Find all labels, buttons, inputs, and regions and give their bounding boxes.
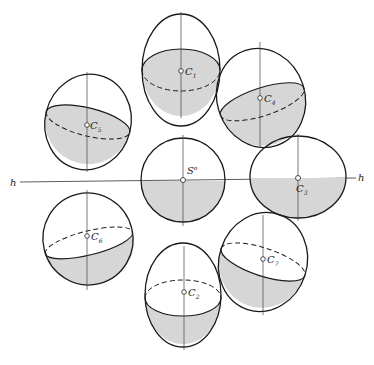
sphere-c6 — [33, 183, 143, 294]
label-c7: C7 — [267, 254, 279, 267]
sphere-c1: C1 — [142, 12, 220, 126]
center-point — [181, 178, 186, 183]
label-c6: C6 — [91, 231, 103, 244]
spheres-diagram: h h So C1 C4 C5 — [0, 0, 374, 365]
label-s-center: So — [187, 164, 198, 176]
sphere-c5 — [35, 65, 142, 179]
horizon-label-right: h — [358, 172, 364, 183]
horizon-label-left: h — [10, 177, 16, 188]
sphere-c2: C2 — [145, 243, 221, 350]
label-c2: C2 — [188, 287, 200, 300]
diagram-canvas: h h So C1 C4 C5 — [0, 0, 374, 365]
sphere-c3: C3 — [250, 134, 346, 221]
